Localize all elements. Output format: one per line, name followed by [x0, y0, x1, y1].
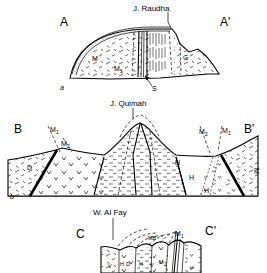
unit-label-b-m2r: M 2	[199, 128, 208, 137]
label-peak-quimah: J. Quimah	[110, 99, 146, 108]
figure-canvas: A A' J. Raudha M M 1 G S a B B' J. Quima…	[0, 0, 267, 273]
texture-h-c	[137, 247, 152, 273]
label-section-c-right: C'	[205, 224, 216, 238]
label-peak-alfay: W. Al Fay	[93, 208, 127, 217]
label-section-a-right: A'	[220, 15, 230, 29]
svg-text:2: 2	[67, 143, 70, 149]
unit-label-c-v2: V	[150, 262, 154, 268]
label-section-a-left: A	[60, 15, 68, 29]
unit-label-b-m1: M 1	[50, 126, 59, 135]
cross-section-drawing: A A' J. Raudha M M 1 G S a B B' J. Quima…	[0, 0, 267, 273]
label-section-b-right: B'	[244, 122, 254, 136]
unit-label-c-v1: V	[108, 263, 112, 269]
unit-label-c-s-rot: S	[189, 266, 195, 270]
unit-label-b-h3: H	[204, 187, 209, 194]
unit-label-b-h1: H	[175, 159, 180, 166]
unit-label-c-d: D	[126, 261, 130, 267]
unit-label-b-h2: H	[189, 174, 194, 181]
label-section-b-left: B	[14, 122, 22, 136]
label-section-c-left: C	[76, 227, 85, 241]
panel-label-a: a	[60, 84, 64, 91]
svg-text:1: 1	[228, 130, 231, 136]
unit-label-b-m-rot: M	[253, 168, 260, 174]
unit-label-b-d: D	[27, 164, 32, 171]
panel-b-group	[8, 108, 258, 196]
unit-label-c-h2: H	[139, 261, 143, 267]
texture-cone-b	[94, 124, 186, 195]
unit-label-c-m1: M 1	[175, 230, 184, 239]
svg-text:1: 1	[120, 68, 123, 74]
texture-left-c	[102, 249, 119, 273]
unit-label-a-m: M	[92, 55, 98, 62]
svg-text:2: 2	[205, 131, 208, 137]
unit-label-a-s: S	[152, 85, 157, 92]
unit-label-c-h1: H	[120, 261, 124, 267]
unit-label-c-mb: MB	[148, 235, 157, 241]
svg-text:1: 1	[56, 129, 59, 135]
unit-label-b-m1r: M 1	[222, 127, 231, 136]
unit-label-a-g: G	[183, 54, 188, 61]
svg-text:2: 2	[164, 261, 167, 267]
panel-a-group	[70, 12, 219, 86]
label-peak-raudha: J. Raudha	[133, 4, 170, 13]
svg-text:1: 1	[181, 233, 184, 239]
dike-line3-a	[144, 31, 145, 77]
panel-label-b: b	[10, 193, 14, 200]
